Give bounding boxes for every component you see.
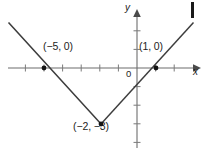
y-axis-label: y <box>125 3 130 13</box>
x-axis-label: x <box>193 67 198 77</box>
y-axis-arrow <box>133 9 141 17</box>
point-dot-x-intercept-right <box>154 66 159 71</box>
graph-figure: (−5, 0) (1, 0) (−2, −3) y x 0 <box>0 0 205 149</box>
graph-right-branch <box>101 23 193 124</box>
marked-points <box>42 66 159 127</box>
point-label-x-intercept-right: (1, 0) <box>139 41 163 52</box>
y-axis-group <box>133 9 141 148</box>
point-label-x-intercept-left: (−5, 0) <box>43 41 73 52</box>
cropped-edge-artifact <box>191 2 194 18</box>
origin-label: 0 <box>126 69 131 79</box>
x-axis-group <box>8 64 201 72</box>
point-dot-x-intercept-left <box>42 66 47 71</box>
graph-left-branch <box>9 23 101 124</box>
function-curve <box>9 23 193 124</box>
point-label-vertex: (−2, −3) <box>73 121 109 132</box>
